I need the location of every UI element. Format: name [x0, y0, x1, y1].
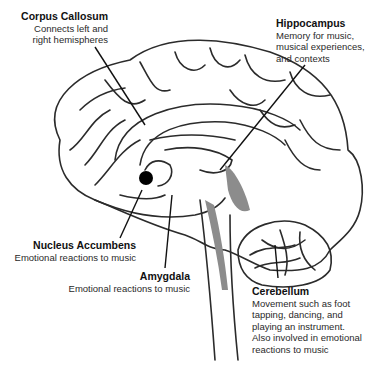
label-amygdala: Amygdala Emotional reactions to music — [60, 271, 190, 294]
label-hippocampus: Hippocampus Memory for music, musical ex… — [276, 18, 380, 64]
cortex-outline — [55, 40, 363, 270]
label-corpus-callosum: Corpus Callosum Connects left and right … — [10, 11, 108, 46]
nucleus-accumbens-marker — [139, 171, 153, 185]
label-title: Corpus Callosum — [10, 11, 108, 23]
label-nucleus-accumbens: Nucleus Accumbens Emotional reactions to… — [10, 240, 136, 263]
corpus-callosum-shape — [115, 104, 300, 160]
label-cerebellum: Cerebellum Movement such as foot tapping… — [252, 286, 381, 355]
